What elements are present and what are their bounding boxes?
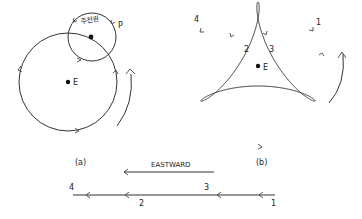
arrow-icon [309,27,313,31]
arrow-icon [319,53,324,56]
label-e: E [73,78,78,87]
line-position-2: 2 [139,199,144,208]
arrow-up-icon [338,52,346,58]
epicycloid-path [201,2,315,101]
planet-dot [89,35,94,40]
figure-b: E 1 2 3 4 (b) [194,2,346,167]
eastward-label: EASTWARD [151,161,191,169]
arrow-icon [263,31,267,35]
caption-a: (a) [75,158,86,167]
motion-line-group: EASTWARD 4 3 2 1 [69,161,276,208]
position-4-label: 4 [194,15,199,24]
caption-b: (b) [256,158,267,167]
direction-arc [329,54,343,103]
line-position-3: 3 [204,183,209,192]
figure-a: E P 주전원 (a) [18,13,135,167]
earth-dot [66,80,70,84]
position-3-label: 3 [269,45,274,54]
arrow-icon [258,144,262,149]
earth-dot [256,64,260,68]
label-p: P [118,21,123,30]
arrow-icon [230,33,234,37]
arrow-icon [77,58,81,62]
direction-arc [117,74,131,126]
label-e: E [263,63,268,72]
arrow-icon [200,28,204,32]
position-2-label: 2 [244,45,249,54]
diagram-canvas: E P 주전원 (a) E 1 2 3 4 (b) EASTWARD [0,0,362,219]
position-1-label: 1 [316,18,321,27]
epicycle-label: 주전원 [80,14,99,26]
arrow-up-icon [126,69,135,74]
line-position-4: 4 [69,183,74,192]
arrow-icon [111,20,115,24]
line-position-1: 1 [271,199,276,208]
